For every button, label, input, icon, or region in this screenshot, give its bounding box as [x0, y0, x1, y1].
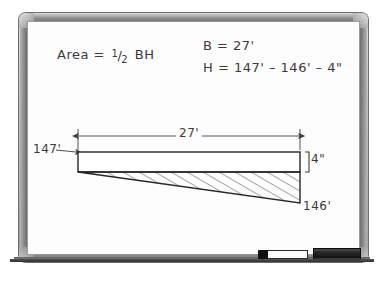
eraser-felt	[314, 258, 360, 260]
whiteboard-marker[interactable]	[258, 250, 308, 259]
marker-cap	[258, 250, 268, 259]
marker-body	[267, 250, 308, 259]
wedge-triangle	[78, 172, 300, 203]
whiteboard-eraser[interactable]	[313, 248, 361, 259]
width-dimension-label: 27'	[176, 126, 202, 140]
thickness-bracket	[305, 152, 309, 172]
slab-rectangle	[78, 152, 300, 172]
elevation-label-147: 147'	[33, 142, 61, 156]
elevation-label-146: 146'	[303, 199, 331, 213]
thickness-label: 4"	[311, 152, 325, 166]
whiteboard-scene: Area = 1/2 BH B = 27' H = 147' – 146' – …	[0, 0, 387, 283]
